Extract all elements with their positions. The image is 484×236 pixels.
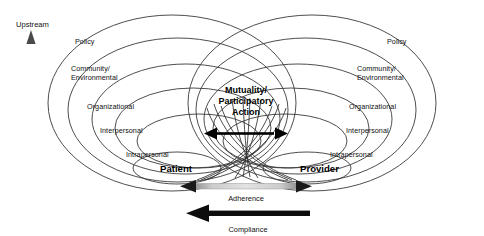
mutuality-double-arrow xyxy=(204,128,288,140)
patient-label-organizational: Organizational xyxy=(87,102,134,111)
adherence-arrow-shaft xyxy=(193,183,299,189)
provider-label-intrapersonal: Intrapersonal xyxy=(330,150,373,159)
mutuality-line-1: Mutuality/ xyxy=(225,85,267,95)
provider-actor-label: Provider xyxy=(300,163,339,174)
compliance-arrow xyxy=(186,205,310,223)
patient-label-environmental: Environmental xyxy=(71,73,118,82)
patient-label-intrapersonal: Intrapersonal xyxy=(126,150,169,159)
provider-label-policy: Policy xyxy=(387,37,407,46)
compliance-arrow-shaft xyxy=(205,211,310,216)
upstream-arrow-head xyxy=(26,30,35,44)
patient-actor-label: Patient xyxy=(160,163,193,174)
patient-label-policy: Policy xyxy=(75,37,95,46)
diagram-canvas: Upstream Policy Community/ Environmental… xyxy=(0,0,484,236)
provider-label-community: Community/ xyxy=(357,64,396,73)
provider-intrapersonal-ellipse xyxy=(223,114,347,168)
compliance-arrow-head xyxy=(186,205,209,223)
compliance-label: Compliance xyxy=(228,225,267,234)
upstream-label: Upstream xyxy=(16,20,49,29)
mutuality-line-2: Participatory xyxy=(218,96,273,106)
socioecological-model-diagram: Upstream Policy Community/ Environmental… xyxy=(0,0,484,236)
patient-label-community: Community/ xyxy=(71,64,110,73)
provider-label-interpersonal: Interpersonal xyxy=(346,126,389,135)
provider-label-organizational: Organizational xyxy=(349,102,396,111)
patient-label-interpersonal: Interpersonal xyxy=(100,126,143,135)
mutuality-line-3: Action xyxy=(232,107,260,117)
mutuality-arrow-shaft xyxy=(214,132,274,135)
adherence-label: Adherence xyxy=(228,194,264,203)
provider-label-environmental: Environmental xyxy=(357,73,404,82)
patient-intrapersonal-ellipse xyxy=(137,114,261,168)
upstream-arrow xyxy=(26,30,35,181)
